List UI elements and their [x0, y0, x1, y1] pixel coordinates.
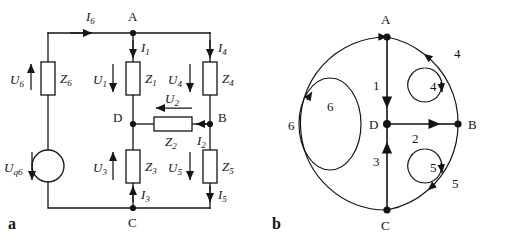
graph-node-label-c: C — [381, 218, 390, 233]
label-u5: U5 — [168, 160, 182, 177]
label-i4: I4 — [217, 40, 227, 57]
branch-label-1: 1 — [373, 78, 380, 93]
node-label-a: A — [128, 9, 138, 24]
label-z6: Z6 — [60, 71, 72, 88]
label-u1: U1 — [93, 72, 107, 89]
graph-node-dot-d — [383, 120, 391, 128]
node-dot-c — [130, 205, 136, 211]
label-i3: I3 — [140, 187, 150, 204]
mesh-loop-4 — [408, 68, 442, 102]
impedance-z2 — [154, 117, 192, 131]
panel-a: A B C D Z6 Z1 Z2 Z3 Z4 Z5 — [4, 9, 234, 230]
voltage-source-symbol — [32, 150, 64, 182]
node-label-b: B — [218, 110, 227, 125]
node-label-d: D — [113, 110, 122, 125]
caption-a: a — [8, 215, 16, 233]
mesh-label-6: 6 — [327, 99, 334, 114]
graph-node-label-d: D — [369, 117, 378, 132]
impedance-z6 — [41, 62, 55, 95]
branch-label-4: 4 — [454, 46, 461, 61]
graph-node-label-b: B — [468, 117, 477, 132]
mesh-6-arrowhead — [307, 92, 312, 100]
mesh-5-circle — [408, 149, 442, 183]
mesh-label-5: 5 — [430, 160, 437, 175]
label-z4: Z4 — [222, 71, 234, 88]
label-z5: Z5 — [222, 159, 234, 176]
label-i2: I2 — [196, 133, 206, 150]
label-z3: Z3 — [145, 159, 157, 176]
panel-b: A B C D 1 2 3 4 5 6 4 5 6 — [288, 12, 477, 233]
branch-6-arc-seg1 — [301, 133, 387, 210]
branch-label-2: 2 — [412, 131, 419, 146]
branch-label-5: 5 — [452, 176, 459, 191]
graph-inner-branches — [387, 37, 458, 210]
mesh-loop-6 — [299, 78, 361, 170]
caption-b: b — [272, 215, 281, 233]
mesh-6-ellipse — [299, 78, 361, 170]
node-dot-a — [130, 30, 136, 36]
label-u6: U6 — [10, 72, 24, 89]
impedance-z3 — [126, 150, 140, 183]
figure-svg: A B C D Z6 Z1 Z2 Z3 Z4 Z5 — [0, 0, 505, 248]
label-z2: Z2 — [165, 134, 177, 151]
label-u3: U3 — [93, 160, 107, 177]
graph-node-dot-b — [454, 120, 461, 127]
impedance-z1 — [126, 62, 140, 95]
branch-label-3: 3 — [373, 154, 380, 169]
label-i5: I5 — [217, 187, 227, 204]
graph-mesh-labels: 4 5 6 — [327, 79, 437, 175]
label-u2: U2 — [165, 91, 179, 108]
impedance-z4 — [203, 62, 217, 95]
branch-label-6: 6 — [288, 118, 295, 133]
graph-node-dot-c — [383, 206, 390, 213]
mesh-loop-5 — [408, 149, 442, 183]
graph-node-label-a: A — [381, 12, 391, 27]
label-i6: I6 — [85, 9, 95, 26]
label-i1: I1 — [140, 40, 150, 57]
node-dot-d — [130, 121, 136, 127]
label-uq6: Uq6 — [4, 160, 23, 177]
label-u4: U4 — [168, 72, 182, 89]
mesh-label-4: 4 — [430, 79, 437, 94]
branch-5-arc-seg2 — [387, 190, 428, 210]
label-z1: Z1 — [145, 71, 157, 88]
wire-left-lower — [48, 182, 133, 208]
mesh-4-circle — [408, 68, 442, 102]
node-label-c: C — [128, 215, 137, 230]
figure-container: A B C D Z6 Z1 Z2 Z3 Z4 Z5 — [0, 0, 505, 248]
branch-4-arc-seg2 — [387, 37, 424, 54]
impedance-z5 — [203, 150, 217, 183]
graph-node-dot-a — [383, 33, 390, 40]
